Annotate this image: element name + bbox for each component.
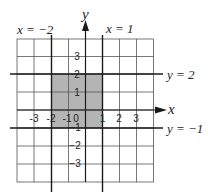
label-y-2: y = 2 — [165, 67, 195, 82]
x-tick-label: -2 — [47, 113, 56, 124]
coordinate-plane-diagram: y x x = −2 x = 1 y = 2 y = −1 -3 -2 -1 0… — [0, 0, 208, 196]
y-tick-label: −1 — [69, 122, 81, 133]
x-axis-arrow-icon — [155, 107, 167, 114]
y-tick-label: −3 — [69, 158, 81, 169]
label-x-1: x = 1 — [105, 21, 134, 36]
x-tick-label: 1 — [100, 113, 106, 124]
y-axis-label: y — [80, 6, 89, 22]
x-tick-label: 2 — [116, 113, 122, 124]
y-tick-label: 2 — [74, 69, 80, 80]
y-tick-label: 1 — [74, 87, 80, 98]
y-tick-label: −2 — [69, 140, 81, 151]
label-y-neg1: y = −1 — [165, 121, 203, 136]
label-x-neg2: x = −2 — [16, 22, 54, 37]
x-axis-label: x — [167, 101, 175, 117]
y-tick-label: 3 — [74, 51, 80, 62]
x-tick-label: 3 — [133, 113, 139, 124]
x-tick-label: -3 — [30, 113, 39, 124]
